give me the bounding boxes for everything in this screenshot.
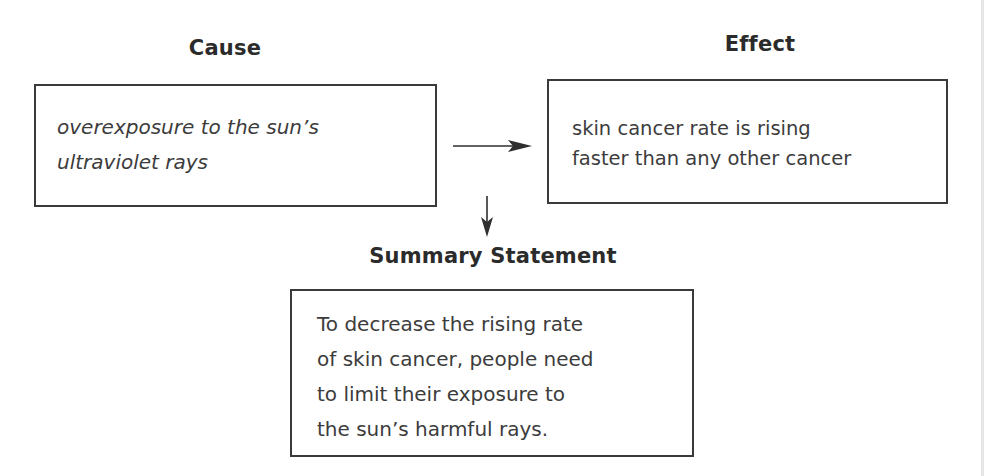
- cause-text: overexposure to the sun’s ultraviolet ra…: [57, 110, 319, 180]
- cause-text-line: ultraviolet rays: [57, 145, 319, 180]
- summary-text-line: of skin cancer, people need: [317, 342, 594, 377]
- cause-heading: Cause: [175, 36, 275, 60]
- effect-text: skin cancer rate is rising faster than a…: [572, 114, 851, 174]
- effect-text-line: faster than any other cancer: [572, 144, 851, 174]
- effect-box: skin cancer rate is rising faster than a…: [547, 79, 948, 204]
- summary-text-line: To decrease the rising rate: [317, 307, 594, 342]
- summary-text-line: to limit their exposure to: [317, 377, 594, 412]
- effect-text-line: skin cancer rate is rising: [572, 114, 851, 144]
- summary-text: To decrease the rising rate of skin canc…: [317, 307, 594, 447]
- summary-text-line: the sun’s harmful rays.: [317, 412, 594, 447]
- cause-box: overexposure to the sun’s ultraviolet ra…: [34, 84, 437, 207]
- arrow-down-icon: [479, 195, 495, 239]
- summary-box: To decrease the rising rate of skin canc…: [290, 289, 694, 457]
- effect-heading: Effect: [710, 32, 810, 56]
- summary-heading: Summary Statement: [343, 244, 643, 268]
- arrow-right-icon: [452, 138, 534, 154]
- cause-text-line: overexposure to the sun’s: [57, 110, 319, 145]
